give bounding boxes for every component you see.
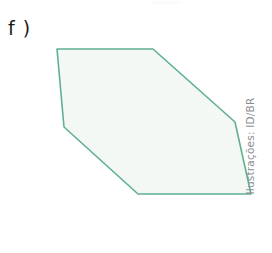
figure-container: f ) Ilustrações: ID/BR (0, 0, 272, 253)
geometry-figure (0, 0, 272, 253)
credit-text: Ilustrações: ID/BR (244, 81, 256, 211)
hexagon-shape (57, 49, 251, 194)
